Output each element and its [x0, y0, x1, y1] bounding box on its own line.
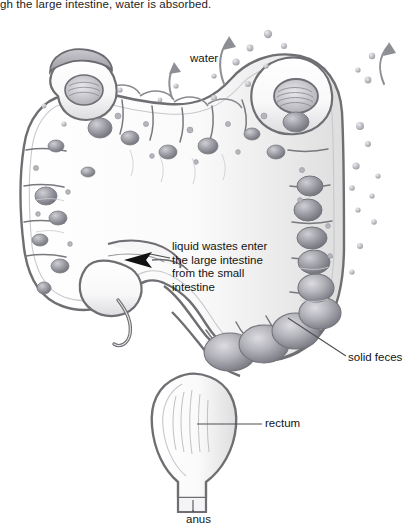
label-liquid-wastes: liquid wastes enter the large intestine … — [172, 240, 267, 294]
figure-stage: gh the large intestine, water is absorbe… — [0, 0, 411, 532]
label-rectum: rectum — [265, 417, 300, 431]
label-anus: anus — [186, 513, 211, 527]
cecum-appendix — [80, 261, 142, 346]
label-solid-feces: solid feces — [348, 351, 402, 365]
label-water: water — [190, 52, 218, 66]
rectum-structure — [152, 374, 237, 512]
